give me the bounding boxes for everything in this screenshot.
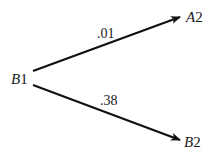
node-b2: B2 bbox=[184, 134, 201, 150]
node-b1: B1 bbox=[11, 71, 28, 87]
node-b1-letter: B bbox=[11, 71, 20, 87]
node-a2: A2 bbox=[185, 9, 203, 25]
node-b1-number: 1 bbox=[20, 71, 28, 87]
node-b2-letter: B bbox=[184, 134, 193, 150]
node-a2-number: 2 bbox=[195, 9, 203, 25]
edge-label-b1-a2: .01 bbox=[97, 26, 115, 41]
edge-label-b1-b2: .38 bbox=[100, 93, 118, 108]
node-b2-number: 2 bbox=[193, 134, 201, 150]
probability-tree-diagram: .01 .38 B1 A2 B2 bbox=[0, 0, 210, 152]
